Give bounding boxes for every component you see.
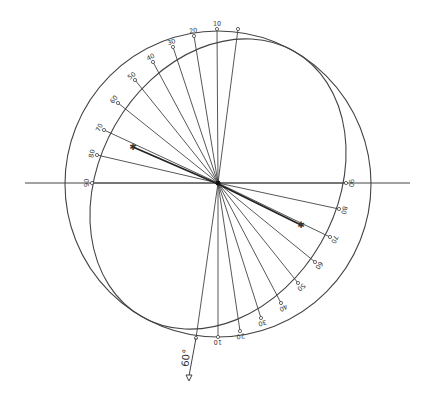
lower-spoke-0 bbox=[196, 183, 218, 338]
tick-marker bbox=[344, 181, 347, 184]
upper-tick-label: 90 bbox=[83, 179, 91, 187]
upper-spoke-30 bbox=[173, 47, 218, 183]
upper-spoke-50 bbox=[135, 80, 218, 183]
upper-tick-label: 10 bbox=[213, 20, 221, 28]
plunge-angle-label: 60° bbox=[180, 349, 193, 368]
upper-tick-label: 30 bbox=[166, 37, 176, 47]
lower-tick-label: 90 bbox=[347, 179, 355, 187]
upper-tick-label: 80 bbox=[87, 149, 97, 159]
center-point bbox=[216, 181, 221, 186]
lower-pole-line bbox=[218, 184, 301, 225]
tick-marker bbox=[236, 27, 239, 30]
pole-marks: ✱✱ bbox=[129, 142, 305, 230]
lower-spoke-20 bbox=[218, 183, 240, 331]
lower-tick-label: 10 bbox=[214, 338, 222, 346]
lower-tick-label: 30 bbox=[257, 318, 267, 328]
lower-spoke-40 bbox=[218, 183, 281, 303]
stereonet-svg: 102030405060708090102030405060708090 ✱✱ … bbox=[0, 0, 439, 401]
lower-tick-label: 80 bbox=[339, 205, 349, 215]
upper-spoke-10 bbox=[217, 29, 218, 183]
lower-spoke-30 bbox=[218, 183, 261, 318]
upper-pole-line bbox=[133, 147, 218, 184]
lower-tick-label: 20 bbox=[236, 332, 245, 341]
star-icon: ✱ bbox=[297, 220, 305, 230]
tick-marker bbox=[215, 27, 218, 30]
tick-marker bbox=[216, 335, 219, 338]
star-icon: ✱ bbox=[129, 142, 137, 152]
upper-spoke-0 bbox=[218, 29, 238, 183]
tick-marker bbox=[90, 181, 93, 184]
arrow-head-icon bbox=[186, 375, 192, 381]
stereonet-diagram: 102030405060708090102030405060708090 ✱✱ … bbox=[0, 0, 439, 401]
upper-tick-label: 20 bbox=[189, 26, 198, 35]
